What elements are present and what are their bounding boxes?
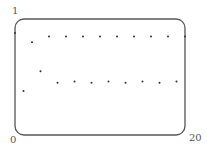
data-point [108,81,110,83]
data-point [65,35,67,37]
data-point [40,70,42,72]
data-point [176,81,178,83]
data-point [48,35,50,37]
data-points [14,32,186,92]
data-point [31,41,33,43]
data-point [133,35,135,37]
data-point [74,81,76,83]
data-point [99,35,101,37]
data-point [167,35,169,37]
data-point [91,82,93,84]
data-point [125,82,127,84]
data-point [159,82,161,84]
origin-label: 0 [10,135,16,145]
data-point [184,35,186,37]
data-point [142,81,144,83]
data-point [14,32,16,34]
data-point [116,35,118,37]
data-point [82,35,84,37]
y-max-label: 1 [12,6,18,16]
data-point [57,82,59,84]
scatter-plot [0,0,207,151]
x-max-label: 20 [189,133,202,143]
data-point [23,90,25,92]
data-point [150,35,152,37]
